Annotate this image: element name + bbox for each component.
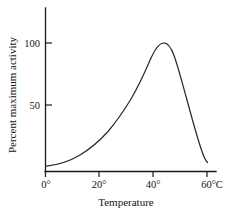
x-axis-title: Temperature: [98, 196, 154, 208]
activity-curve: [47, 43, 208, 166]
y-axis-title: Percent maximum activity: [6, 36, 18, 153]
y-tick-label-100: 100: [24, 38, 40, 49]
x-tick-label-20: 20°: [92, 179, 107, 190]
enzyme-activity-chart: 100 50 0° 20° 40° 60°C Temperature Perce…: [0, 0, 235, 215]
x-tick-label-0: 0°: [41, 179, 50, 190]
x-tick-label-40: 40°: [146, 179, 161, 190]
x-tick-label-60: 60°C: [201, 179, 223, 190]
chart-canvas: 100 50 0° 20° 40° 60°C Temperature Perce…: [0, 0, 235, 215]
y-tick-label-50: 50: [30, 100, 41, 111]
